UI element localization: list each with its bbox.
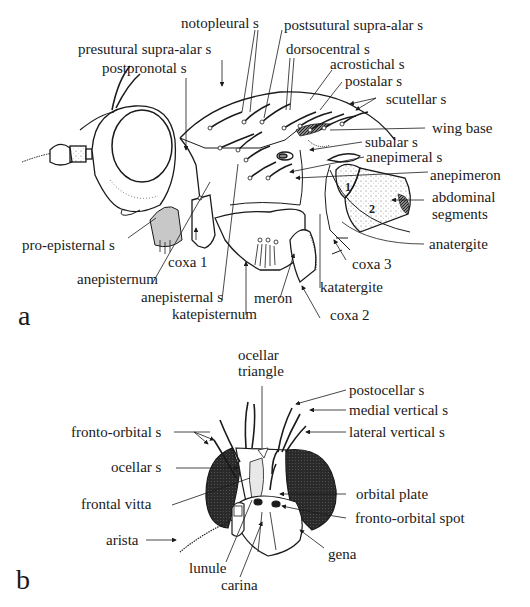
frontal-vitta-shape — [249, 458, 263, 500]
label-notopleural-s: notopleural s — [181, 16, 259, 31]
label-lateral-vertical-s: lateral vertical s — [349, 425, 445, 440]
label-carina: carina — [221, 578, 258, 593]
label-subalar-s: subalar s — [365, 135, 418, 150]
label-coxa-1: coxa 1 — [168, 255, 208, 270]
coxa1-outline — [192, 195, 215, 248]
head-front-drawing — [180, 402, 336, 556]
label-meron: meron — [254, 291, 292, 306]
label-anepimeron: anepimeron — [430, 168, 501, 183]
label-anepisternal-s: anepisternal s — [141, 290, 223, 305]
label-acrostichal-s: acrostichal s — [330, 57, 405, 72]
label-postocellar-s: postocellar s — [349, 383, 424, 398]
meron-outline — [290, 230, 316, 282]
label-katatergite: katatergite — [320, 280, 383, 295]
label-presutural-supra-alar-s: presutural supra-alar s — [78, 42, 211, 57]
label-coxa-2: coxa 2 — [330, 308, 370, 323]
label-lunule: lunule — [189, 561, 227, 576]
label-orbital-plate: orbital plate — [356, 487, 428, 502]
label-postsutural-supra-alar-s: postsutural supra-alar s — [284, 18, 423, 33]
abdominal-segment-number-1: 1 — [345, 180, 351, 195]
figure-root: notopleural s postsutural supra-alar s p… — [0, 0, 530, 607]
label-medial-vertical-s: medial vertical s — [349, 403, 448, 418]
label-ocellar-triangle-2: triangle — [238, 364, 284, 379]
label-anepimeral-s: anepimeral s — [366, 150, 442, 165]
label-anatergite: anatergite — [429, 237, 488, 252]
compound-eye-icon — [112, 110, 172, 182]
label-pro-episternal-s: pro-episternal s — [22, 238, 115, 253]
label-anepisternum: anepisternum — [77, 272, 158, 287]
antenna-icon — [22, 144, 92, 165]
label-arista: arista — [106, 533, 138, 548]
label-abdominal-segments-1: abdominal — [432, 190, 495, 205]
label-ocellar-s: ocellar s — [111, 460, 161, 475]
face-outline — [240, 496, 302, 556]
label-postpronotal-s: postpronotal s — [102, 61, 187, 76]
abdominal-segment-number-2: 2 — [369, 202, 375, 217]
scutum-outline — [180, 92, 395, 140]
proepisternum-shade — [150, 207, 182, 247]
panel-letter-a: a — [18, 302, 30, 330]
panel-letter-b: b — [16, 566, 30, 594]
label-frontal-vitta: frontal vitta — [81, 497, 151, 512]
label-katepisternum: katepisternum — [172, 307, 257, 322]
label-wing-base: wing base — [432, 121, 492, 136]
label-abdominal-segments-2: segments — [432, 207, 488, 222]
label-postalar-s: postalar s — [345, 74, 402, 89]
label-dorsocentral-s: dorsocentral s — [286, 42, 370, 57]
label-ocellar-triangle-1: ocellar — [238, 348, 279, 363]
label-fronto-orbital-spot: fronto-orbital spot — [355, 511, 465, 526]
label-fronto-orbital-s: fronto-orbital s — [71, 425, 161, 440]
label-coxa-3: coxa 3 — [352, 257, 392, 272]
label-scutellar-s: scutellar s — [386, 92, 446, 107]
label-gena: gena — [328, 547, 356, 562]
